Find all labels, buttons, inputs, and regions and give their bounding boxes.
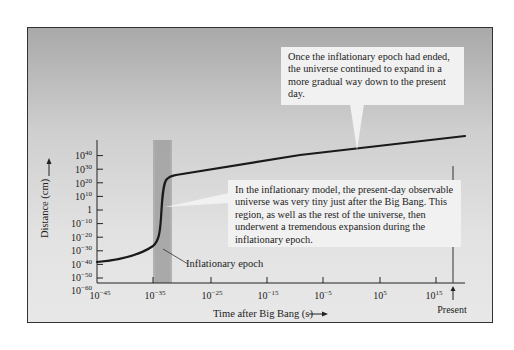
callout-inflationary-model: In the inflationary model, the present-d… bbox=[228, 180, 461, 247]
svg-text:1010: 1010 bbox=[75, 190, 93, 202]
svg-text:105: 105 bbox=[373, 289, 387, 301]
x-ticks bbox=[153, 277, 436, 283]
svg-text:1030: 1030 bbox=[75, 163, 93, 175]
y-ticks bbox=[97, 156, 103, 278]
x-axis-title: Time after Big Bang (s) bbox=[213, 308, 313, 320]
svg-text:10−45: 10−45 bbox=[90, 289, 111, 301]
inflationary-epoch-band-core bbox=[155, 140, 170, 283]
svg-text:10−20: 10−20 bbox=[71, 231, 92, 243]
svg-text:10−25: 10−25 bbox=[202, 289, 223, 301]
present-label: Present bbox=[437, 304, 467, 315]
y-tick-labels: 1040 1030 1020 1010 1 10−10 10−20 10−30 … bbox=[71, 149, 92, 296]
svg-text:10−10: 10−10 bbox=[71, 217, 92, 229]
callout-top-pointer bbox=[350, 104, 364, 150]
y-axis-title: Distance (cm) bbox=[39, 178, 51, 238]
svg-text:1015: 1015 bbox=[426, 289, 444, 301]
present-arrow-icon bbox=[451, 286, 456, 291]
svg-text:10−50: 10−50 bbox=[71, 271, 92, 283]
y-axis-arrow-icon bbox=[47, 158, 52, 164]
svg-text:1: 1 bbox=[87, 204, 92, 215]
svg-text:10−35: 10−35 bbox=[145, 289, 166, 301]
svg-text:10−15: 10−15 bbox=[258, 289, 279, 301]
svg-text:1020: 1020 bbox=[75, 177, 93, 189]
callout-after-inflation: Once the inflationary epoch had ended, t… bbox=[281, 47, 464, 105]
x-axis-arrow-icon bbox=[322, 312, 328, 317]
inflationary-epoch-label: Inflationary epoch bbox=[186, 258, 263, 269]
svg-text:10−5: 10−5 bbox=[314, 289, 332, 301]
callout-mid-pointer bbox=[165, 193, 229, 207]
svg-text:1040: 1040 bbox=[75, 149, 93, 161]
x-tick-labels: 10−45 10−35 10−25 10−15 10−5 105 1015 bbox=[90, 289, 443, 301]
svg-text:10−30: 10−30 bbox=[71, 244, 92, 256]
svg-text:10−40: 10−40 bbox=[71, 258, 92, 270]
